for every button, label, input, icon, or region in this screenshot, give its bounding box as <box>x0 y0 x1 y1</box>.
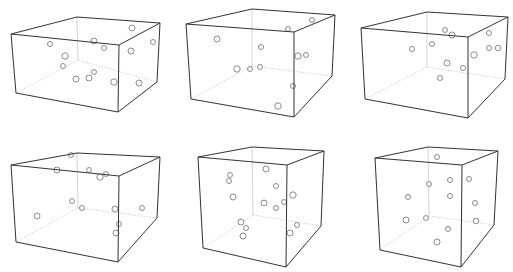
box-edge <box>287 151 324 165</box>
box-edge <box>157 157 160 218</box>
data-point <box>444 60 450 66</box>
data-point <box>287 230 293 236</box>
data-point <box>310 18 315 23</box>
box-edge <box>118 45 119 112</box>
box-edge <box>461 165 462 267</box>
data-point <box>92 70 97 75</box>
box-edge <box>198 157 203 248</box>
data-point <box>487 31 492 36</box>
data-point <box>487 46 492 51</box>
panel-box-3 <box>361 12 508 118</box>
data-point <box>495 45 501 51</box>
data-point <box>263 166 269 172</box>
data-point <box>286 27 291 32</box>
hidden-edge <box>203 215 253 248</box>
box-edge <box>11 34 16 93</box>
box-edge <box>361 12 427 28</box>
data-point <box>406 195 411 200</box>
data-point <box>473 201 478 206</box>
data-point <box>438 76 443 81</box>
data-point <box>471 52 477 58</box>
box-edge <box>77 153 160 157</box>
box-edge <box>119 157 160 176</box>
data-point <box>290 192 296 198</box>
box-edge <box>321 151 324 226</box>
panel-box-2 <box>186 9 335 117</box>
box-edge <box>16 242 118 262</box>
hidden-edge <box>77 17 78 60</box>
data-point <box>291 84 296 89</box>
data-point <box>111 79 117 85</box>
data-point <box>128 48 134 54</box>
box-edge <box>375 147 428 158</box>
data-point <box>230 194 236 200</box>
box-edge <box>462 151 498 165</box>
data-point <box>435 155 440 160</box>
data-point <box>424 216 429 221</box>
data-point <box>248 67 253 72</box>
panel-box-6 <box>375 147 498 267</box>
data-point <box>446 227 451 232</box>
hidden-edge <box>252 66 332 76</box>
box-edge <box>11 165 16 242</box>
box-edge <box>380 250 461 267</box>
data-point <box>258 65 263 70</box>
data-point <box>214 36 220 42</box>
data-point <box>244 226 249 231</box>
data-point <box>151 40 156 45</box>
hidden-edge <box>252 147 253 215</box>
data-point <box>467 177 472 182</box>
data-point <box>234 66 240 72</box>
data-point <box>129 25 135 31</box>
panel-box-4 <box>11 153 160 263</box>
data-point <box>73 76 79 82</box>
box-edge <box>11 17 77 34</box>
data-point <box>274 184 279 189</box>
box-edge <box>286 165 287 267</box>
data-point <box>430 42 435 47</box>
data-point <box>228 173 233 178</box>
data-point <box>86 75 92 81</box>
hidden-edge <box>191 66 252 99</box>
data-point <box>70 199 75 204</box>
data-point <box>117 222 122 227</box>
data-point <box>34 213 40 219</box>
box-edge <box>16 93 118 112</box>
data-point <box>61 64 66 69</box>
box-edge <box>294 15 335 32</box>
data-point <box>427 182 432 187</box>
box-edge <box>11 153 77 165</box>
data-point <box>461 66 466 71</box>
data-point <box>136 80 142 86</box>
box-edge <box>118 82 157 112</box>
box-edge <box>186 9 252 24</box>
data-point <box>238 219 244 225</box>
panel-box-1 <box>11 17 160 112</box>
data-point <box>87 168 92 173</box>
box-edge <box>468 79 505 118</box>
data-point <box>282 200 287 205</box>
data-point <box>304 53 309 58</box>
box-edge <box>118 218 157 262</box>
box-edge <box>198 157 287 165</box>
hidden-edge <box>365 67 427 99</box>
data-point <box>140 206 145 211</box>
data-point <box>434 239 440 245</box>
data-point <box>62 53 68 59</box>
box-edge <box>505 17 508 79</box>
data-point <box>48 42 53 47</box>
box-edge <box>294 76 332 117</box>
box-edge <box>11 34 119 45</box>
data-point <box>448 194 453 199</box>
box-edge <box>252 9 335 15</box>
data-point <box>410 47 415 52</box>
figure-canvas <box>0 0 513 272</box>
box-edge <box>252 147 324 151</box>
hidden-edge <box>16 60 78 93</box>
data-point <box>473 218 479 224</box>
box-edge <box>198 147 252 157</box>
data-point <box>275 103 281 109</box>
box-edge <box>428 147 498 151</box>
data-point <box>80 206 85 211</box>
box-edge <box>186 24 294 32</box>
